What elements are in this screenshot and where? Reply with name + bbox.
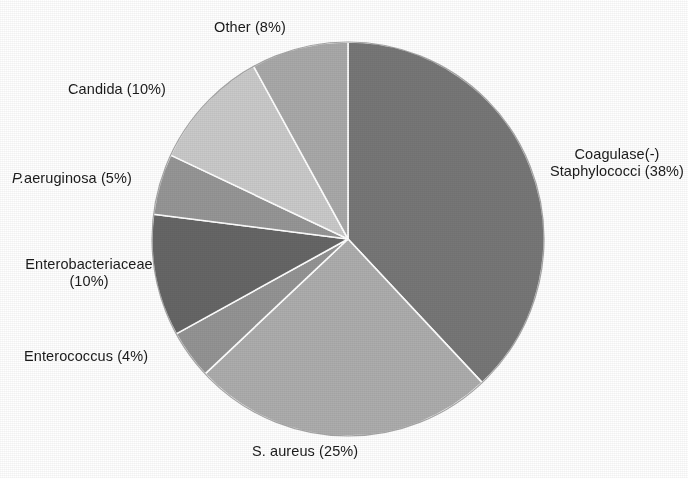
pie-chart-figure: Other (8%) Candida (10%) P.aeruginosa (5… <box>0 0 688 478</box>
slice-label-enterobacteriaceae-line1: Enterobacteriaceae <box>8 256 170 273</box>
slice-label-candida: Candida (10%) <box>68 81 166 98</box>
slice-label-coagulase-line1: Coagulase(-) <box>549 146 685 163</box>
slice-label-other-text: Other (8%) <box>214 19 286 35</box>
slice-label-enterococcus: Enterococcus (4%) <box>24 348 148 365</box>
pie-chart-canvas <box>0 0 688 478</box>
slice-label-enterobacteriaceae: Enterobacteriaceae (10%) <box>8 256 170 290</box>
slice-label-p-aeruginosa-genus: P. <box>12 170 24 186</box>
slice-label-enterobacteriaceae-line2: (10%) <box>8 273 170 290</box>
slice-label-s-aureus: S. aureus (25%) <box>252 443 358 460</box>
slice-label-candida-text: Candida (10%) <box>68 81 166 97</box>
slice-label-coagulase-negative-staphylococci: Coagulase(-) Staphylococci (38%) <box>549 146 685 180</box>
slice-label-p-aeruginosa-text: aeruginosa (5%) <box>24 170 132 186</box>
slice-label-s-aureus-text: S. aureus (25%) <box>252 443 358 459</box>
slice-label-enterococcus-text: Enterococcus (4%) <box>24 348 148 364</box>
slice-label-p-aeruginosa: P.aeruginosa (5%) <box>12 170 132 187</box>
slice-label-other: Other (8%) <box>214 19 286 36</box>
pie-slices-group <box>152 42 544 436</box>
slice-label-coagulase-line2: Staphylococci (38%) <box>549 163 685 180</box>
